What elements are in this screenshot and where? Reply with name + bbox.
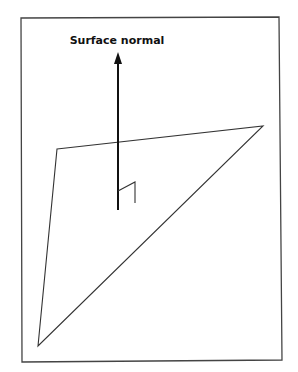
- frame-border: [21, 17, 282, 362]
- plane-triangle: [38, 126, 263, 346]
- surface-normal-diagram: Surface normal: [0, 0, 298, 372]
- normal-arrow-head-icon: [114, 52, 122, 64]
- right-angle-marker: [118, 182, 135, 203]
- surface-normal-label: Surface normal: [70, 34, 165, 47]
